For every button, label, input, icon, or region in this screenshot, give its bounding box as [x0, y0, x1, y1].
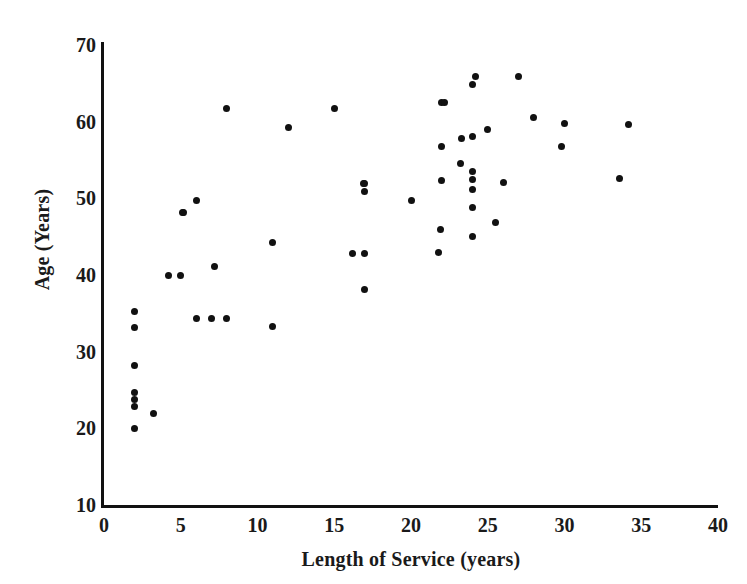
data-point — [500, 179, 507, 186]
x-tick-label: 15 — [312, 515, 356, 535]
y-tick-label: 20 — [52, 418, 96, 438]
x-tick-label: 20 — [389, 515, 433, 535]
data-point — [469, 133, 476, 140]
scatter-chart: Age (Years) 10203040506070 0510152025303… — [0, 0, 747, 584]
y-tick-label: 10 — [52, 495, 96, 515]
data-point — [469, 204, 476, 211]
x-tick-label: 35 — [619, 515, 663, 535]
data-point — [193, 315, 200, 322]
x-axis-label: Length of Service (years) — [104, 548, 718, 571]
y-tick-label: 70 — [52, 35, 96, 55]
y-tick-label: 30 — [52, 342, 96, 362]
x-tick-label: 25 — [466, 515, 510, 535]
y-tick-label: 40 — [52, 265, 96, 285]
y-tick-label: 50 — [52, 188, 96, 208]
data-point — [437, 226, 444, 233]
data-point — [349, 250, 356, 257]
data-point — [223, 105, 230, 112]
data-point — [469, 186, 476, 193]
data-point — [211, 263, 218, 270]
data-point — [361, 188, 368, 195]
data-point — [492, 219, 499, 226]
data-point — [469, 233, 476, 240]
data-point — [625, 121, 632, 128]
data-point — [457, 160, 464, 167]
x-tick-label: 30 — [543, 515, 587, 535]
y-tick-labels: 10203040506070 — [44, 0, 96, 584]
data-point — [269, 323, 276, 330]
data-point — [131, 308, 138, 315]
data-point — [458, 135, 465, 142]
data-point — [530, 114, 537, 121]
data-point — [223, 315, 230, 322]
data-point — [484, 126, 491, 133]
data-point — [285, 124, 292, 131]
data-point — [131, 324, 138, 331]
data-point — [561, 120, 568, 127]
data-point — [269, 239, 276, 246]
data-point — [469, 81, 476, 88]
plot-area — [104, 45, 718, 505]
data-point — [208, 315, 215, 322]
x-tick-label: 10 — [236, 515, 280, 535]
data-point — [469, 176, 476, 183]
data-point — [558, 143, 565, 150]
data-point — [441, 99, 448, 106]
data-point — [515, 73, 522, 80]
data-point — [438, 143, 445, 150]
data-point — [131, 425, 138, 432]
data-point — [616, 175, 623, 182]
data-point — [408, 197, 415, 204]
data-point — [361, 286, 368, 293]
y-tick-label: 60 — [52, 112, 96, 132]
data-point — [469, 168, 476, 175]
data-point — [435, 249, 442, 256]
x-axis-line — [101, 505, 718, 508]
data-point — [177, 272, 184, 279]
x-tick-label: 40 — [696, 515, 740, 535]
data-point — [193, 197, 200, 204]
data-point — [150, 410, 157, 417]
data-point — [165, 272, 172, 279]
data-point — [131, 362, 138, 369]
data-point — [131, 396, 138, 403]
data-point — [438, 177, 445, 184]
data-point — [472, 73, 479, 80]
data-point — [131, 389, 138, 396]
data-point — [331, 105, 338, 112]
data-point — [361, 250, 368, 257]
x-tick-label: 5 — [159, 515, 203, 535]
x-tick-label: 0 — [82, 515, 126, 535]
data-point — [179, 209, 186, 216]
data-point — [131, 403, 138, 410]
